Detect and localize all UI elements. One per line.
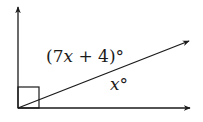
lower-angle-label: x° (110, 74, 128, 94)
angle-diagram: (7x + 4)° x° (0, 0, 203, 122)
right-angle-marker (18, 87, 39, 108)
upper-angle-label: (7x + 4)° (46, 46, 124, 66)
